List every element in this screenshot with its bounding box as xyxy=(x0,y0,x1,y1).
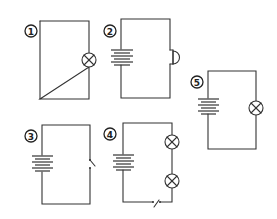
wire xyxy=(121,19,170,50)
wire xyxy=(123,170,153,202)
svg-text:5: 5 xyxy=(194,78,200,88)
wire xyxy=(208,114,256,149)
circuit-label-2: 2 xyxy=(104,25,116,37)
circuit-label-3: 3 xyxy=(25,130,37,142)
battery-icon xyxy=(111,50,133,65)
wire xyxy=(42,125,90,160)
wire xyxy=(42,168,90,204)
wire xyxy=(121,64,170,98)
circuit-2: 2 xyxy=(104,19,180,98)
circuit-label-4: 4 xyxy=(104,128,116,140)
circuit-4: 4 xyxy=(104,123,179,207)
svg-text:3: 3 xyxy=(28,132,34,142)
lamp-icon xyxy=(165,135,179,149)
circuit-1: 1 xyxy=(25,21,96,99)
battery-icon xyxy=(32,156,53,171)
circuit-diagrams: 1 2 xyxy=(0,0,277,219)
wire xyxy=(208,71,256,101)
switch-open-icon xyxy=(89,159,95,169)
circuit-label-1: 1 xyxy=(25,25,37,37)
lamp-icon xyxy=(82,53,96,67)
lamp-icon xyxy=(165,174,179,188)
circuit-5: 5 xyxy=(191,71,263,149)
wire xyxy=(160,188,172,202)
bell-icon xyxy=(170,50,180,64)
battery-icon xyxy=(198,99,219,114)
switch-open-icon xyxy=(152,200,161,207)
circuit-label-5: 5 xyxy=(191,76,203,88)
battery-icon xyxy=(113,155,134,170)
svg-text:2: 2 xyxy=(107,27,113,37)
circuit-3: 3 xyxy=(25,125,95,204)
wire xyxy=(123,123,172,154)
svg-text:1: 1 xyxy=(28,27,34,37)
lamp-icon xyxy=(249,101,263,115)
svg-text:4: 4 xyxy=(107,130,113,140)
